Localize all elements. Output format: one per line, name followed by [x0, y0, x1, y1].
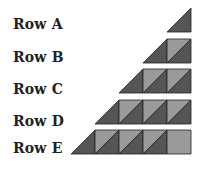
half-square-triangle [167, 8, 191, 32]
half-square-triangle [95, 100, 119, 124]
half-square-triangle [71, 130, 95, 154]
half-square-triangle [119, 69, 143, 93]
half-square-triangle [143, 39, 167, 63]
triangle-staircase-diagram [0, 0, 212, 170]
light-square [167, 130, 191, 154]
